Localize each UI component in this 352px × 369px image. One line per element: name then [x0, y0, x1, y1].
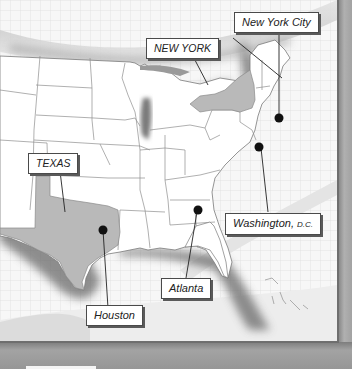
label-houston[interactable]: Houston [86, 305, 143, 326]
map-panel: New York City NEW YORK TEXAS Washington,… [0, 0, 339, 343]
frame-right-edge [339, 0, 352, 343]
label-new-york-city[interactable]: New York City [234, 12, 319, 33]
label-new-york-state[interactable]: NEW YORK [146, 38, 219, 59]
marker-new-york-city[interactable] [275, 114, 284, 123]
label-texas[interactable]: TEXAS [28, 153, 78, 174]
marker-houston[interactable] [99, 226, 108, 235]
frame-bottom-edge [0, 342, 352, 369]
marker-atlanta[interactable] [194, 206, 203, 215]
marker-washington-dc[interactable] [255, 143, 264, 152]
label-atlanta[interactable]: Atlanta [161, 278, 211, 299]
label-washington-dc[interactable]: Washington, D.C. [225, 213, 321, 235]
